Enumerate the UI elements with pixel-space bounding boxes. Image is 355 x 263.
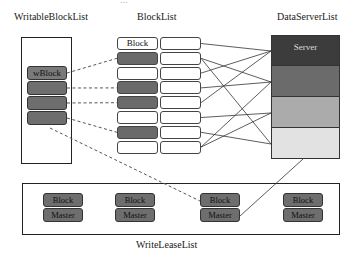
diagram-canvas: ... WritableBlockList BlockList DataServ…: [0, 0, 355, 263]
replica-link: [201, 82, 271, 147]
replica-link: [201, 82, 271, 88]
dashed-link: [67, 118, 117, 132]
replica-link: [201, 44, 271, 52]
replica-link: [201, 113, 271, 118]
dashed-link: [67, 58, 117, 73]
replica-link: [201, 51, 271, 103]
replica-link: [201, 58, 271, 144]
connection-lines: [0, 0, 355, 263]
dashed-link: [50, 128, 200, 201]
replica-link: [240, 159, 303, 216]
